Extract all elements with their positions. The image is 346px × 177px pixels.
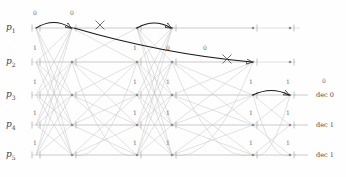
decision-label: dec 1	[316, 152, 334, 159]
row-label-p4: p4	[6, 120, 16, 131]
bit-label: 1	[33, 140, 37, 146]
row-label-p2: p2	[6, 57, 16, 68]
row-label-subscript: 4	[12, 124, 16, 131]
bit-label: 1	[286, 79, 290, 85]
bit-label: 1	[249, 110, 253, 116]
bit-label: 1	[133, 45, 137, 51]
bit-label: 0	[166, 45, 170, 51]
bit-label: 1	[286, 110, 290, 116]
stage-edges-b	[72, 28, 137, 156]
bit-label: 1	[166, 79, 170, 85]
row-label-subscript: 2	[12, 61, 16, 68]
bit-label: 1	[133, 110, 137, 116]
bit-label: 0	[33, 10, 37, 16]
bit-label: 1	[133, 79, 137, 85]
bit-label: 0	[203, 45, 207, 51]
bit-label: 1	[166, 140, 170, 146]
trellis-figure: p1p2p3p4p5 0011000111111111111111 dec 0d…	[0, 0, 346, 177]
decision-label: dec 0	[316, 92, 334, 99]
trellis-edges-layer	[0, 0, 346, 177]
row-label-p5: p5	[6, 150, 16, 161]
bit-label: 1	[249, 140, 253, 146]
stage-edges-a	[36, 28, 72, 155]
bit-label: 0	[70, 10, 74, 16]
bit-label: 1	[249, 79, 253, 85]
bit-label: 1	[33, 45, 37, 51]
row-label-p3: p3	[6, 90, 16, 101]
bit-label: 1	[286, 140, 290, 146]
bit-label: 1	[133, 140, 137, 146]
node-ticks	[32, 25, 294, 159]
stage-edges-d	[172, 28, 290, 156]
bit-label: 1	[166, 110, 170, 116]
row-label-subscript: 5	[12, 154, 16, 161]
bit-label: 0	[322, 78, 326, 84]
decision-stubs	[294, 95, 308, 155]
decision-label: dec 1	[316, 122, 334, 129]
bit-label: 1	[33, 79, 37, 85]
row-label-subscript: 3	[12, 94, 16, 101]
row-label-subscript: 1	[12, 27, 16, 34]
row-label-p1: p1	[6, 23, 16, 34]
bit-label: 1	[33, 110, 37, 116]
